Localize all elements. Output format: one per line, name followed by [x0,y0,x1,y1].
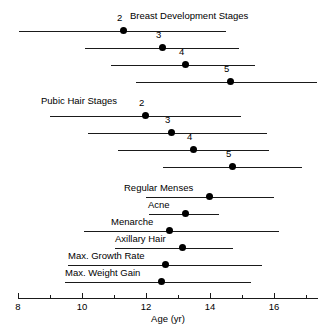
chart-row-breast-3 [0,41,336,55]
x-ticklabel-14: 14 [198,302,222,312]
row-label-axillary-hair: Axillary Hair [115,234,166,244]
x-tick-8 [18,293,19,298]
mean-marker [162,261,169,268]
group-label-pubic: Pubic Hair Stages [41,96,117,106]
mean-marker [182,61,189,68]
range-bar [115,248,233,249]
mean-marker [182,210,189,217]
x-tick-10 [82,293,83,298]
stage-number-breast-4: 4 [179,47,184,57]
mean-marker [229,163,236,170]
puberty-milestones-chart: Breast Development Stages 2 3 4 5 Pubic … [0,0,336,331]
stage-number-pubic-4: 4 [187,132,192,142]
x-ticklabel-8: 8 [6,302,30,312]
x-tick-14 [210,293,211,298]
mean-marker [158,278,165,285]
chart-row-max-weight-gain [0,275,336,289]
stage-number-pubic-3: 3 [165,115,170,125]
x-ticklabel-10: 10 [70,302,94,312]
x-axis-line [18,298,318,299]
x-tick-16 [274,293,275,298]
x-axis-title: Age (yr) [0,314,336,324]
x-tick-9 [50,295,51,298]
chart-row-menarche [0,224,336,238]
group-label-breast: Breast Development Stages [130,11,248,21]
mean-marker [190,146,197,153]
chart-row-breast-4 [0,58,336,72]
mean-marker [166,227,173,234]
x-tick-11 [114,295,115,298]
chart-row-pubic-4 [0,143,336,157]
chart-row-breast-2 [0,24,336,38]
chart-row-max-growth-rate [0,258,336,272]
mean-marker [168,129,175,136]
row-label-max-weight-gain: Max. Weight Gain [65,268,140,278]
stage-number-breast-2: 2 [117,13,122,23]
x-tick-15 [242,295,243,298]
chart-row-pubic-5 [0,160,336,174]
row-label-acne: Acne [148,200,170,210]
range-bar [88,133,267,134]
stage-number-pubic-5: 5 [226,149,231,159]
mean-marker [179,244,186,251]
mean-marker [142,112,149,119]
row-label-menarche: Menarche [111,217,153,227]
stage-number-breast-5: 5 [224,64,229,74]
range-bar [84,231,279,232]
x-tick-12 [146,293,147,298]
chart-row-breast-5 [0,75,336,89]
chart-row-axillary-hair [0,241,336,255]
x-tick-13 [178,295,179,298]
x-ticklabel-12: 12 [134,302,158,312]
mean-marker [120,27,127,34]
stage-number-pubic-2: 2 [139,98,144,108]
stage-number-breast-3: 3 [156,30,161,40]
x-ticklabel-16: 16 [262,302,286,312]
mean-marker [159,44,166,51]
mean-marker [227,78,234,85]
mean-marker [206,193,213,200]
row-label-max-growth-rate: Max. Growth Rate [68,251,145,261]
x-tick-17 [306,295,307,298]
chart-row-pubic-3 [0,126,336,140]
